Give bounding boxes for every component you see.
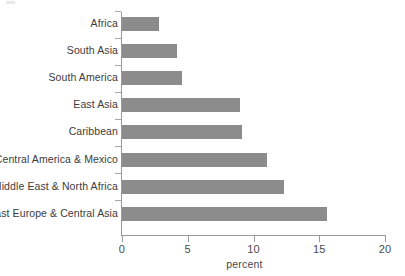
corner-artifact-mark [6, 1, 15, 4]
category-label: East Europe & Central Asia [0, 207, 118, 219]
x-axis-tick-label: 15 [313, 243, 326, 255]
bar-chart: AfricaSouth AsiaSouth AmericaEast AsiaCa… [0, 0, 405, 276]
bar [122, 207, 327, 221]
bar [122, 98, 240, 112]
bar [122, 125, 242, 139]
category-label: East Asia [73, 98, 118, 110]
bar [122, 17, 159, 31]
bar [122, 71, 182, 85]
x-axis-tick [319, 236, 320, 242]
category-label: Africa [91, 17, 118, 29]
x-axis-tick [122, 236, 123, 242]
category-label: Central America & Mexico [0, 153, 118, 165]
bar [122, 153, 267, 167]
category-label: South Asia [67, 44, 118, 56]
category-label: South America [48, 71, 118, 83]
x-axis-tick [254, 236, 255, 242]
x-axis-tick-label: 5 [185, 243, 191, 255]
x-axis-title-text: percent [226, 258, 262, 270]
x-axis-title: percent [0, 258, 405, 270]
x-axis-tick [385, 236, 386, 242]
bar [122, 180, 284, 194]
x-axis-tick-label: 20 [379, 243, 392, 255]
category-label: Caribbean [69, 125, 118, 137]
x-axis-tick-label: 0 [119, 243, 125, 255]
x-axis-tick-label: 10 [247, 243, 260, 255]
x-axis-tick [188, 236, 189, 242]
category-label: Middle East & North Africa [0, 180, 118, 192]
bar [122, 44, 177, 58]
